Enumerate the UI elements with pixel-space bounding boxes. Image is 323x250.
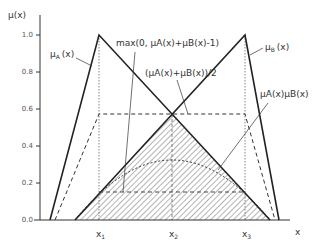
x-axis-label: x [295,227,301,237]
tick-4: 0.8 [22,68,33,76]
label-mu-a: μA(x) [50,49,74,60]
label-mu-b: μB(x) [265,42,289,53]
x1-label: x1 [96,229,105,240]
tick-3: 0.6 [22,105,34,113]
x2-label: x2 [169,229,178,240]
tick-2: 0.4 [22,142,34,150]
label-max-expr: max(0, μA(x)+μB(x)-1) [116,38,219,48]
leader-avg [177,80,188,114]
y-ticks: 0.0 0.2 0.4 0.6 0.8 1.0 [22,31,40,224]
leader-prod [218,103,268,170]
tick-1: 0.2 [22,179,33,187]
label-prod-expr: μA(x)μB(x) [260,89,308,99]
y-axis-label: μ(x) [8,10,26,20]
leader-mu-b [250,48,263,55]
tick-5: 1.0 [22,31,33,39]
leader-mu-a [76,58,92,66]
tick-0: 0.0 [22,216,33,224]
x3-label: x3 [242,229,251,240]
label-avg-expr: (μA(x)+μB(x))/2 [145,68,217,78]
hatched-area [75,114,270,220]
fuzzy-membership-chart: 0.0 0.2 0.4 0.6 0.8 1.0 μ(x) x μA(x) μB(… [0,0,323,250]
